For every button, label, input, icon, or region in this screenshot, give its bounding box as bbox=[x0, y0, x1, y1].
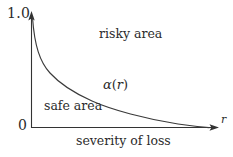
y-axis-min-label: 0 bbox=[18, 118, 27, 132]
alpha-risk-curve-figure: 1.0 0 r risky area safe area α(r) severi… bbox=[0, 0, 233, 157]
curve-paren-close: ) bbox=[123, 77, 128, 92]
curve-symbol-alpha: α bbox=[103, 77, 112, 92]
y-axis-max-label: 1.0 bbox=[7, 6, 30, 20]
safe-area-label: safe area bbox=[44, 100, 102, 113]
curve-function-label: α(r) bbox=[103, 78, 128, 91]
x-axis-variable-label: r bbox=[221, 114, 226, 125]
risky-area-label: risky area bbox=[99, 28, 162, 41]
x-axis-title: severity of loss bbox=[76, 135, 171, 148]
